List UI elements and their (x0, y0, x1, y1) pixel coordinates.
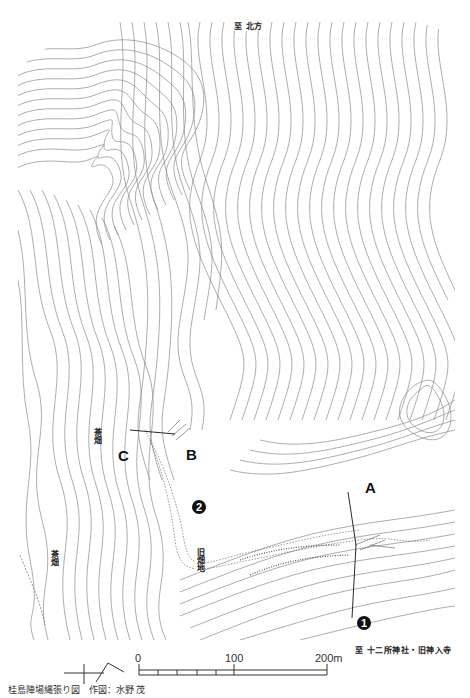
scale-start-label: 0 (135, 652, 141, 664)
north-direction-label: 至 北方 (232, 20, 265, 31)
scale-end-label: 200m (315, 652, 343, 664)
point-label-b: B (186, 446, 197, 463)
map-title: 桂島陣場縄張り図 (8, 685, 80, 695)
fort-earthworks (145, 420, 430, 575)
marker-1: 1 (357, 616, 371, 630)
map-author: 作図：水野 茂 (89, 685, 146, 695)
scale-bar (139, 664, 327, 675)
tea-field-label-1: 茶畑 (92, 428, 100, 444)
contour-lines (10, 22, 460, 640)
point-label-c: C (118, 447, 129, 464)
old-field-label: 旧畑地 (195, 548, 203, 572)
tea-field-label-2: 茶畑 (49, 550, 57, 566)
scale-mid-label: 100 (225, 652, 243, 664)
marker-2: 2 (192, 500, 206, 514)
point-label-a: A (365, 479, 376, 496)
leader-lines (130, 430, 356, 618)
map-caption: 桂島陣場縄張り図 作図：水野 茂 (8, 683, 145, 696)
southeast-direction-label: 至 十二所神社・旧神入寺 (353, 644, 454, 655)
contour-map (0, 0, 470, 698)
stream-line (20, 555, 45, 625)
north-arrow-icon (64, 663, 124, 684)
